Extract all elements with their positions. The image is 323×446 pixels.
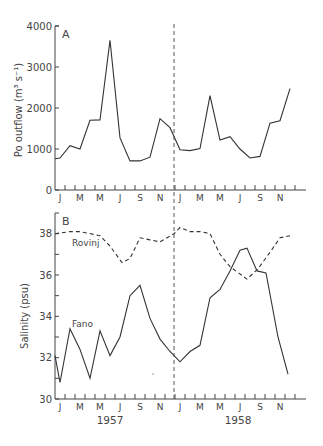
y-tick-label: 2000 xyxy=(27,103,52,114)
artifact-dot xyxy=(152,373,154,375)
x-month-label: N xyxy=(157,193,164,203)
x-month-label: J xyxy=(118,402,122,412)
x-month-label: M xyxy=(76,193,84,203)
x-month-label: J xyxy=(118,193,122,203)
year-label-1958: 1958 xyxy=(225,414,252,426)
y-axis-title: Po outflow (m³ s⁻¹) xyxy=(13,63,24,157)
y-tick-label: 36 xyxy=(39,270,52,281)
panel-label: B xyxy=(62,215,70,228)
y-tick-label: 1000 xyxy=(27,144,52,155)
x-month-label: M xyxy=(76,402,84,412)
x-month-label: M xyxy=(96,402,104,412)
x-month-label: S xyxy=(257,402,263,412)
x-month-label: M xyxy=(196,193,204,203)
series-label-rovinj: Rovinj xyxy=(72,238,99,248)
x-month-label: N xyxy=(277,402,284,412)
x-month-label: J xyxy=(238,193,242,203)
panel-label: A xyxy=(62,28,70,41)
x-month-label: J xyxy=(178,402,182,412)
x-month-label: S xyxy=(137,193,143,203)
x-month-label: M xyxy=(196,402,204,412)
y-tick-label: 30 xyxy=(39,394,52,405)
series-label-fano: Fano xyxy=(72,319,94,329)
x-month-label: J xyxy=(238,402,242,412)
panel-b-salinity: 3032343638JMMJSNJMMJSNBSalinity (psu)Rov… xyxy=(19,213,306,426)
y-tick-label: 34 xyxy=(39,311,52,322)
x-month-label: J xyxy=(58,193,62,203)
x-month-label: N xyxy=(157,402,164,412)
y-tick-label: 0 xyxy=(46,185,52,196)
year-label-1957: 1957 xyxy=(97,414,124,426)
x-month-label: M xyxy=(216,402,224,412)
y-tick-label: 38 xyxy=(39,228,52,239)
x-month-label: S xyxy=(257,193,263,203)
x-month-label: M xyxy=(96,193,104,203)
x-month-label: M xyxy=(216,193,224,203)
y-tick-label: 32 xyxy=(39,352,52,363)
y-tick-label: 4000 xyxy=(27,21,52,32)
x-month-label: J xyxy=(58,402,62,412)
y-axis-title: Salinity (psu) xyxy=(19,283,30,349)
series-line-rovinj xyxy=(55,228,290,280)
y-tick-label: 3000 xyxy=(27,62,52,73)
panel-a-po-outflow: 01000200030004000JMMJSNJMMJSNAPo outflow… xyxy=(13,21,306,204)
series-line-fano xyxy=(55,248,288,382)
series-line-po-outflow xyxy=(55,40,290,161)
x-month-label: N xyxy=(277,193,284,203)
figure: 01000200030004000JMMJSNJMMJSNAPo outflow… xyxy=(0,0,323,446)
x-month-label: S xyxy=(137,402,143,412)
x-month-label: J xyxy=(178,193,182,203)
